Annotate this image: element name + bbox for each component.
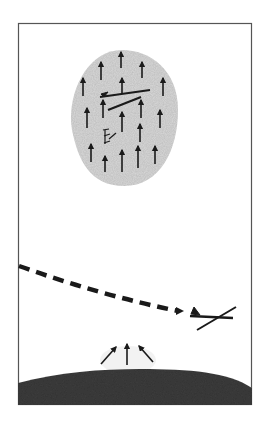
thermal-soaring-diagram — [0, 0, 263, 423]
